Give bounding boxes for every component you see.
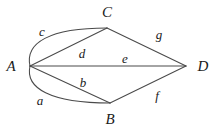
- vertex-label-D: D: [198, 59, 209, 74]
- edge-label-b: b: [80, 76, 87, 89]
- edge-g-path: [107, 28, 186, 66]
- vertex-label-C: C: [102, 5, 112, 20]
- edge-label-d: d: [79, 47, 86, 60]
- edge-f-path: [110, 66, 186, 103]
- edge-label-e: e: [122, 52, 128, 65]
- vertex-label-B: B: [105, 112, 114, 127]
- diagram-canvas: A B C D a b c d e f g: [0, 0, 218, 131]
- edge-label-a: a: [37, 94, 44, 107]
- edge-label-f: f: [155, 89, 159, 102]
- edge-label-g: g: [156, 28, 163, 41]
- edge-label-c: c: [39, 25, 45, 38]
- vertex-label-A: A: [6, 59, 15, 74]
